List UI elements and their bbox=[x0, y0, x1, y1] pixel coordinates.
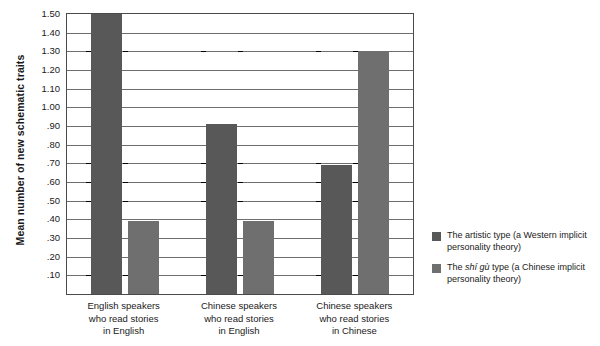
x-axis-category-labels: English speakerswho read storiesin Engli… bbox=[66, 300, 414, 344]
axis-tick-mark bbox=[86, 51, 91, 52]
axis-tick-mark bbox=[86, 275, 91, 276]
axis-tick-mark bbox=[316, 163, 321, 164]
x-axis-category-label-line: Chinese speakers bbox=[297, 300, 412, 313]
axis-tick-mark bbox=[353, 201, 358, 202]
legend-label-italic-term: shí gù bbox=[465, 262, 490, 272]
axis-tick-mark bbox=[86, 182, 91, 183]
y-axis-title-text: Mean number of new schematic traits bbox=[14, 55, 26, 246]
legend-label: The artistic type (a Western implicitper… bbox=[447, 230, 587, 253]
axis-tick-mark bbox=[353, 182, 358, 183]
x-axis-category-label-line: in English bbox=[66, 325, 181, 338]
x-axis-category-label: English speakerswho read storiesin Engli… bbox=[66, 300, 181, 338]
axis-tick-mark bbox=[201, 163, 206, 164]
y-axis-tick-label: 1.30 bbox=[42, 47, 61, 57]
bar bbox=[358, 51, 389, 294]
axis-tick-mark bbox=[123, 163, 128, 164]
axis-tick-mark bbox=[316, 51, 321, 52]
axis-tick-mark bbox=[123, 51, 128, 52]
legend-label-line1: The artistic type (a Western implicit bbox=[447, 230, 587, 242]
bar-chart-figure: Mean number of new schematic traits 1.50… bbox=[0, 0, 600, 346]
bar bbox=[91, 14, 122, 294]
axis-tick-mark bbox=[123, 201, 128, 202]
legend-swatch-icon bbox=[432, 232, 441, 241]
bar bbox=[321, 165, 352, 294]
axis-tick-mark bbox=[201, 201, 206, 202]
axis-tick-mark bbox=[86, 163, 91, 164]
axis-tick-mark bbox=[201, 182, 206, 183]
axis-tick-mark bbox=[238, 182, 243, 183]
y-axis-tick-label: .50 bbox=[47, 196, 60, 206]
x-axis-category-label: Chinese speakerswho read storiesin Chine… bbox=[297, 300, 412, 338]
legend-label-line2: personality theory) bbox=[447, 242, 587, 254]
axis-tick-mark bbox=[123, 182, 128, 183]
y-axis-tick-label: .20 bbox=[47, 252, 60, 262]
y-axis-tick-label: 1.40 bbox=[42, 28, 61, 38]
axis-tick-mark bbox=[238, 51, 243, 52]
y-axis-tick-label: .70 bbox=[47, 159, 60, 169]
legend-label-line2: personality theory) bbox=[447, 274, 585, 286]
y-axis-tick-label: 1.10 bbox=[42, 84, 61, 94]
y-axis-tick-label: 1.20 bbox=[42, 65, 61, 75]
plot-area bbox=[66, 13, 414, 295]
y-axis-tick-labels: 1.501.401.301.201.101.00.90.80.70.60.50.… bbox=[30, 13, 62, 295]
axis-tick-mark bbox=[353, 163, 358, 164]
axis-tick-mark bbox=[201, 275, 206, 276]
bar bbox=[206, 124, 237, 294]
x-axis-category-label-line: who read stories bbox=[66, 313, 181, 326]
axis-tick-mark bbox=[316, 182, 321, 183]
y-axis-tick-label: .40 bbox=[47, 215, 60, 225]
y-axis-tick-label: .90 bbox=[47, 121, 60, 131]
axis-tick-mark bbox=[316, 275, 321, 276]
x-axis-category-label: Chinese speakerswho read storiesin Engli… bbox=[181, 300, 296, 338]
x-axis-category-label-line: who read stories bbox=[181, 313, 296, 326]
x-axis-category-label-line: Chinese speakers bbox=[181, 300, 296, 313]
axis-tick-mark bbox=[123, 275, 128, 276]
legend-swatch-icon bbox=[432, 264, 441, 273]
legend-label: The shí gù type (a Chinese implicitperso… bbox=[447, 262, 585, 285]
axis-tick-mark bbox=[316, 201, 321, 202]
axis-tick-mark bbox=[238, 275, 243, 276]
x-axis-category-label-line: English speakers bbox=[66, 300, 181, 313]
legend-label-line1: The shí gù type (a Chinese implicit bbox=[447, 262, 585, 274]
chart-legend: The artistic type (a Western implicitper… bbox=[432, 230, 596, 294]
y-axis-tick-label: .60 bbox=[47, 177, 60, 187]
axis-tick-mark bbox=[238, 163, 243, 164]
legend-item[interactable]: The artistic type (a Western implicitper… bbox=[432, 230, 596, 253]
y-axis-tick-label: .10 bbox=[47, 271, 60, 281]
bar bbox=[243, 221, 274, 294]
axis-tick-mark bbox=[353, 275, 358, 276]
x-axis-category-label-line: in English bbox=[181, 325, 296, 338]
x-axis-category-label-line: in Chinese bbox=[297, 325, 412, 338]
y-axis-tick-label: 1.00 bbox=[42, 103, 61, 113]
y-axis-tick-label: .30 bbox=[47, 233, 60, 243]
y-axis-tick-label: 1.50 bbox=[42, 9, 61, 19]
bar bbox=[128, 221, 159, 294]
y-axis-title: Mean number of new schematic traits bbox=[8, 0, 32, 300]
y-axis-tick-label: .80 bbox=[47, 140, 60, 150]
axis-tick-mark bbox=[238, 201, 243, 202]
x-axis-category-label-line: who read stories bbox=[297, 313, 412, 326]
axis-tick-mark bbox=[201, 51, 206, 52]
axis-tick-mark bbox=[353, 51, 358, 52]
axis-tick-mark bbox=[86, 201, 91, 202]
legend-item[interactable]: The shí gù type (a Chinese implicitperso… bbox=[432, 262, 596, 285]
